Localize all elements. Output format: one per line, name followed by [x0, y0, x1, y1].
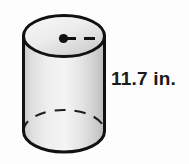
center-dot	[59, 34, 68, 43]
height-measurement-label: 11.7 in.	[111, 68, 176, 90]
cylinder-figure-page: 11.7 in.	[0, 0, 189, 164]
